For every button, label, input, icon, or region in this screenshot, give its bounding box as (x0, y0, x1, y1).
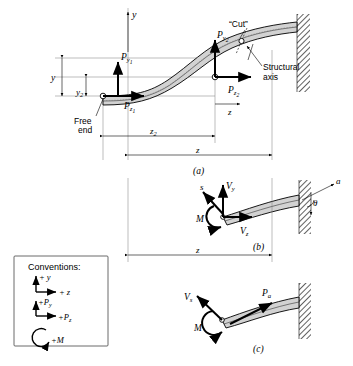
panel-label-a: (a) (193, 166, 204, 177)
panel-label-b: (b) (253, 242, 264, 253)
figure-root: y Py1 Pz1 Py2 (0, 0, 353, 366)
free-end-label-2: end (78, 125, 92, 135)
force-Py2-label: Py2 (216, 30, 229, 43)
dimension-z-a: z (128, 145, 272, 155)
structural-axis-label-2: axis (263, 72, 278, 82)
force-Py1-label: Py1 (120, 52, 133, 65)
legend-title: Conventions: (28, 262, 81, 272)
direction-s-label: s (200, 182, 204, 192)
moment-M-b-label: M (195, 214, 205, 224)
legend-axis-z-label: + z (59, 287, 71, 297)
force-Pz2-label: Pz2 (227, 85, 239, 98)
panel-label-c: (c) (253, 344, 264, 355)
wall-support-b (299, 180, 311, 234)
moment-M-b: M (195, 206, 221, 228)
annotation-free-end: Free end (74, 99, 103, 135)
cut-label: “Cut” (229, 19, 248, 29)
axis-y-label: y (131, 9, 137, 20)
legend-moment-M-label: +M (51, 335, 65, 345)
axis-z-a: z (215, 104, 240, 117)
force-Pa-label: Pa (261, 288, 272, 299)
axis-z-label: z (227, 107, 232, 117)
legend-axis-y-label: + y (39, 272, 51, 282)
beam-c (222, 297, 299, 328)
theta-label: θ (313, 198, 318, 208)
wall-support-c (299, 283, 311, 339)
force-Vs: Vs (184, 292, 222, 320)
force-Py1: Py1 (118, 52, 133, 96)
dimension-y2: y2 (75, 77, 86, 98)
force-Vs-label: Vs (184, 292, 193, 303)
dimension-y-label: y (50, 73, 56, 83)
moment-M-c-label: M (193, 323, 203, 333)
force-Vz-label: Vz (240, 226, 249, 237)
beam-b (223, 195, 299, 225)
dimension-z-b-label: z (195, 245, 200, 255)
force-Pz2: Pz2 (215, 77, 251, 98)
conventions-legend: Conventions: + y + z +Py +Pz +M (14, 256, 108, 347)
panel-b: Vy Vz s M a θ z (128, 176, 341, 262)
structural-axis-label-1: Structural (263, 62, 299, 72)
force-Vy: Vy (223, 181, 236, 217)
dimension-y2-label: y2 (75, 87, 84, 98)
wall-support-a (297, 14, 310, 92)
axis-a-label: a (336, 176, 341, 186)
direction-s-b: s (200, 182, 223, 214)
dimension-z2-label: z2 (149, 126, 158, 137)
dimension-z2: z2 (103, 126, 215, 137)
engineering-diagram: y Py1 Pz1 Py2 (0, 0, 353, 366)
panel-a: y Py1 Pz1 Py2 (50, 8, 310, 177)
dimension-z-a-label: z (195, 145, 200, 155)
force-Vy-label: Vy (226, 181, 236, 192)
annotation-structural-axis: Structural axis (247, 44, 299, 82)
axis-y-a: y (128, 9, 137, 52)
panel-c: Vs Pa M (c) (184, 283, 311, 355)
